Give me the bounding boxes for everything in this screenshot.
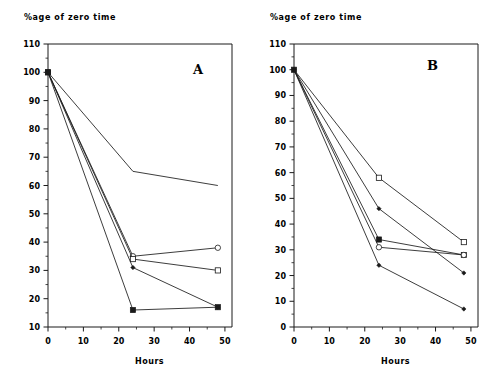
y-axis-ticks <box>44 44 49 327</box>
y-tick-label: 70 <box>254 142 286 151</box>
y-tick-label: 80 <box>8 124 40 133</box>
x-tick-label: 50 <box>219 337 230 346</box>
series-line-3 <box>294 70 464 255</box>
y-tick-label: 30 <box>254 245 286 254</box>
y-tick-label: 50 <box>8 209 40 218</box>
x-tick-label: 40 <box>184 337 195 346</box>
panel-a: %age of zero time A Hours 10203040506070… <box>0 0 246 384</box>
panel-b: %age of zero time B Hours 01020304050607… <box>246 0 492 384</box>
y-tick-label: 90 <box>8 96 40 105</box>
y-tick-label: 100 <box>254 65 286 74</box>
data-point <box>130 256 135 261</box>
data-point <box>377 263 381 267</box>
series-line-2 <box>294 70 464 273</box>
data-point <box>462 307 466 311</box>
data-point <box>376 175 381 180</box>
panel-a-plot-area: 10203040506070809010011001020304050 <box>0 0 246 384</box>
x-tick-label: 10 <box>324 337 335 346</box>
y-tick-label: 40 <box>8 238 40 247</box>
y-tick-label: 10 <box>254 297 286 306</box>
data-point <box>461 240 466 245</box>
axis-frame <box>294 44 478 327</box>
series-line-4 <box>294 70 464 255</box>
y-tick-label: 110 <box>254 40 286 49</box>
y-tick-label: 20 <box>8 294 40 303</box>
y-tick-label: 70 <box>8 153 40 162</box>
x-tick-label: 0 <box>45 337 51 346</box>
series-line-1 <box>294 70 464 242</box>
data-point <box>461 252 466 257</box>
series-line-5 <box>48 72 218 310</box>
data-point-origin <box>291 67 296 72</box>
y-tick-label: 0 <box>254 323 286 332</box>
data-point <box>376 237 381 242</box>
data-point <box>131 265 135 269</box>
y-tick-label: 100 <box>8 68 40 77</box>
x-tick-label: 0 <box>291 337 297 346</box>
axis-frame <box>48 44 232 327</box>
y-tick-label: 50 <box>254 194 286 203</box>
y-tick-label: 40 <box>254 220 286 229</box>
y-tick-label: 10 <box>8 323 40 332</box>
series-markers-5 <box>292 68 466 312</box>
data-point <box>215 268 220 273</box>
x-tick-label: 20 <box>113 337 124 346</box>
data-point <box>215 305 220 310</box>
series-line-2 <box>48 72 218 256</box>
y-tick-label: 20 <box>254 271 286 280</box>
data-point-origin <box>45 70 50 75</box>
series-markers-5 <box>45 70 220 313</box>
data-point <box>215 245 220 250</box>
panel-b-plot-area: 010203040506070809010011001020304050 <box>246 0 492 384</box>
x-tick-label: 40 <box>430 337 441 346</box>
y-tick-label: 60 <box>254 168 286 177</box>
origin-marker <box>45 70 50 75</box>
y-tick-label: 60 <box>8 181 40 190</box>
y-axis-ticks <box>290 44 295 327</box>
figure: %age of zero time A Hours 10203040506070… <box>0 0 492 384</box>
origin-marker <box>291 67 296 72</box>
x-tick-label: 50 <box>465 337 476 346</box>
x-tick-label: 20 <box>359 337 370 346</box>
y-tick-label: 30 <box>8 266 40 275</box>
data-point <box>130 307 135 312</box>
y-tick-label: 110 <box>8 40 40 49</box>
x-axis-ticks <box>48 327 225 332</box>
x-axis-ticks <box>294 327 471 332</box>
x-tick-label: 30 <box>395 337 406 346</box>
series-line-4 <box>48 72 218 307</box>
data-point <box>376 245 381 250</box>
x-tick-label: 10 <box>78 337 89 346</box>
x-tick-label: 30 <box>149 337 160 346</box>
y-tick-label: 90 <box>254 91 286 100</box>
series-line-5 <box>294 70 464 309</box>
y-tick-label: 80 <box>254 117 286 126</box>
